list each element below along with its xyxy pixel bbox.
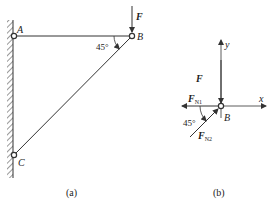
angle-label-a: 45° bbox=[96, 42, 109, 52]
x-axis-label: x bbox=[258, 93, 264, 104]
diagram-canvas: F 45° A B C (a) y x F FN1 FN2 45° B bbox=[0, 0, 270, 212]
point-c-label: C bbox=[18, 157, 25, 168]
pin-b bbox=[129, 33, 134, 38]
force-f-label-b: F bbox=[195, 73, 203, 84]
angle-label-b: 45° bbox=[183, 118, 196, 128]
pin-c bbox=[11, 152, 16, 157]
pin-b-origin bbox=[218, 103, 223, 108]
angle-arc-b bbox=[200, 106, 206, 121]
point-b-label: B bbox=[137, 31, 143, 42]
force-f-label: F bbox=[135, 11, 143, 22]
y-axis-label: y bbox=[224, 39, 230, 50]
point-a-label: A bbox=[16, 24, 24, 35]
force-fn1-label: FN1 bbox=[187, 93, 202, 105]
caption-a: (a) bbox=[66, 187, 77, 199]
bar-bc bbox=[14, 36, 132, 155]
angle-arc-a bbox=[114, 36, 119, 49]
caption-b: (b) bbox=[213, 187, 225, 199]
force-fn2-label: FN2 bbox=[197, 130, 212, 142]
figure-b: y x F FN1 FN2 45° B (b) bbox=[182, 39, 266, 199]
pin-a bbox=[11, 33, 16, 38]
origin-b-label: B bbox=[224, 112, 230, 123]
figure-a: F 45° A B C (a) bbox=[7, 6, 143, 199]
